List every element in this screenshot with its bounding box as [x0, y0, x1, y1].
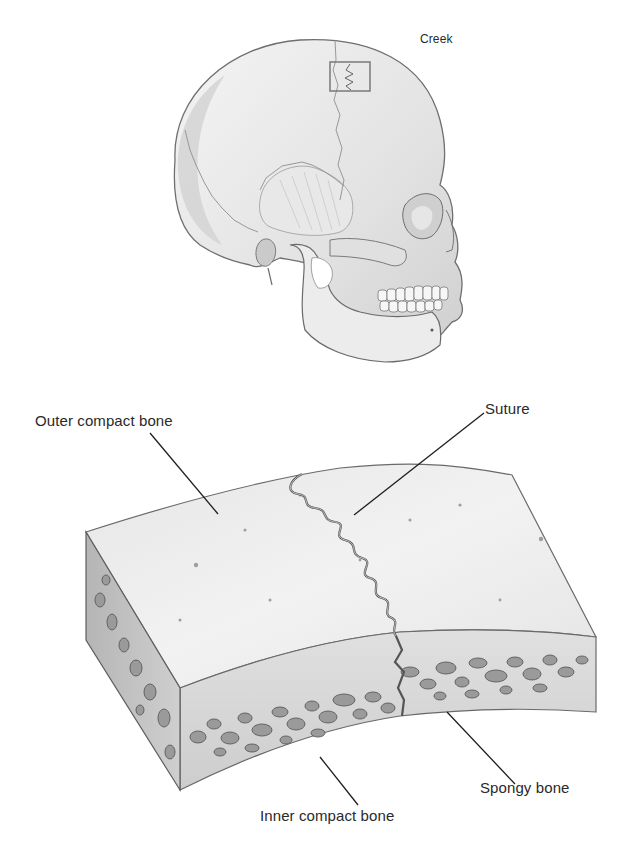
- skull-corner-label: Creek: [420, 32, 453, 46]
- label-spongy-bone: Spongy bone: [480, 779, 570, 796]
- leader-outer-compact: [150, 433, 218, 514]
- bone-section-illustration: [86, 464, 596, 790]
- skull-illustration: [174, 40, 462, 362]
- label-suture: Suture: [485, 400, 530, 417]
- leader-inner-compact: [320, 757, 358, 805]
- label-inner-compact-bone: Inner compact bone: [260, 807, 394, 824]
- leader-spongy: [447, 712, 515, 784]
- label-outer-compact-bone: Outer compact bone: [35, 412, 173, 429]
- figure-canvas: Creek Outer compact bone Suture Spongy b…: [0, 0, 629, 848]
- teeth: [378, 286, 448, 312]
